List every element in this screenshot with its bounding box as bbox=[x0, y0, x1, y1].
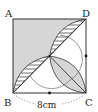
vertex-label-d: D bbox=[82, 8, 90, 19]
dimension-line-right bbox=[62, 96, 83, 104]
geometry-figure: A D B C 8cm bbox=[0, 0, 98, 112]
dimension-label: 8cm bbox=[37, 100, 57, 110]
vertex-label-b: B bbox=[4, 97, 11, 108]
vertex-label-a: A bbox=[4, 8, 13, 19]
vertex-label-c: C bbox=[85, 97, 93, 108]
midpoint-dc-mark bbox=[85, 55, 88, 58]
center-point bbox=[49, 55, 51, 57]
midpoint-bc-mark bbox=[48, 92, 51, 95]
dimension-line-left bbox=[16, 96, 36, 104]
